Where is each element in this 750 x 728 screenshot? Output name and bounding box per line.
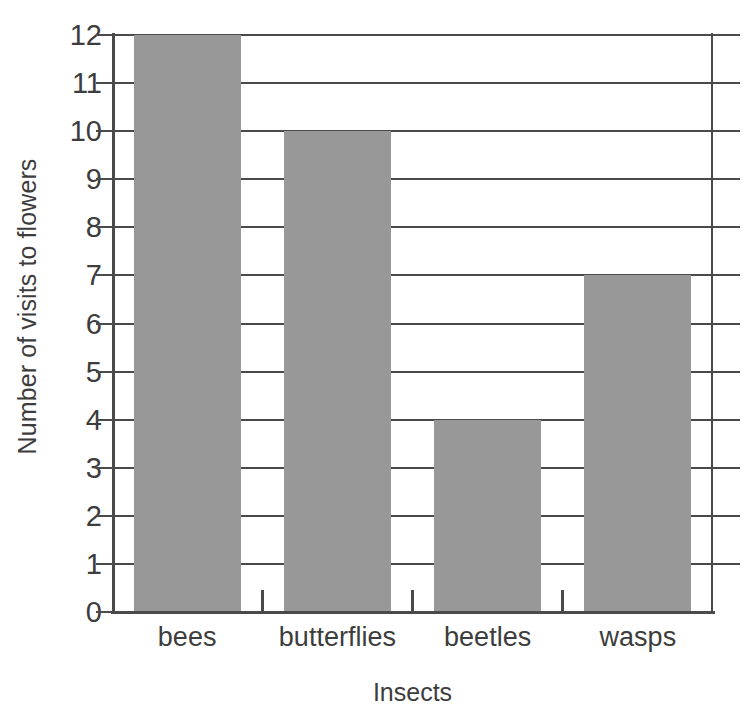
y-axis-tick-mark: [96, 34, 113, 36]
y-axis-line: [112, 33, 115, 614]
x-axis-tick-labels: beesbutterfliesbeetleswasps: [112, 624, 713, 670]
y-axis-tick-mark: [96, 371, 113, 373]
x-axis-tick-mark: [561, 590, 564, 612]
plot-area: [112, 35, 713, 612]
y-axis-title-text: Number of visits to flowers: [14, 158, 43, 454]
x-axis-tick-label: butterflies: [279, 624, 396, 651]
bar-chart: Number of visits to flowers 121110987654…: [0, 0, 750, 728]
y-axis-tick-mark: [96, 178, 113, 180]
x-axis-tick-label: beetles: [444, 624, 531, 651]
y-axis-tick-mark: [96, 274, 113, 276]
x-axis-tick-mark: [261, 590, 264, 612]
x-axis-line: [111, 611, 715, 614]
y-axis-tick-mark: [96, 82, 113, 84]
bar: [584, 275, 691, 612]
y-axis-tick-mark: [96, 419, 113, 421]
right-axis-line: [711, 33, 713, 614]
bar: [134, 35, 241, 612]
x-axis-tick-label: bees: [158, 624, 217, 651]
y-axis-tick-mark: [96, 515, 113, 517]
x-axis-tick-mark: [411, 590, 414, 612]
x-axis-title: Insects: [112, 678, 713, 707]
bar: [284, 131, 391, 612]
bar: [434, 420, 541, 612]
y-axis-tick-mark: [96, 563, 113, 565]
y-axis-tick-labels: 1211109876543210: [56, 0, 102, 630]
y-axis-tick-mark: [96, 130, 113, 132]
y-axis-tick-mark: [96, 467, 113, 469]
y-axis-tick-mark: [96, 323, 113, 325]
x-axis-tick-label: wasps: [600, 624, 677, 651]
y-axis-title: Number of visits to flowers: [0, 0, 56, 612]
y-axis-tick-mark: [96, 226, 113, 228]
